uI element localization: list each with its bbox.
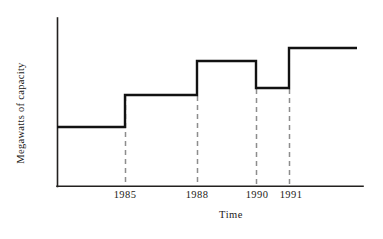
x-axis-title: Time	[219, 209, 243, 220]
x-tick-label-1988: 1988	[186, 189, 209, 200]
x-tick-label-1990: 1990	[246, 189, 269, 200]
y-axis-title: Megawatts of capacity	[15, 62, 26, 164]
x-tick-label-1985: 1985	[114, 189, 137, 200]
chart-figure: 1985 1988 1990 1991 Time Megawatts of ca…	[0, 0, 383, 239]
step-chart-canvas: 1985 1988 1990 1991 Time Megawatts of ca…	[0, 0, 383, 239]
x-tick-label-1991: 1991	[280, 189, 303, 200]
